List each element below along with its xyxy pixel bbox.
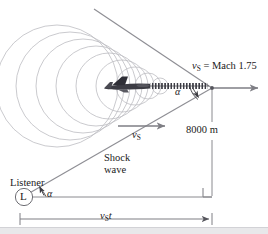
listener-marker-label: L [20, 190, 27, 202]
altitude-label: 8000 m [186, 124, 218, 136]
wavefront-circle [0, 25, 118, 147]
apex-dot [210, 86, 214, 90]
apex-alpha-label: α [175, 86, 180, 97]
listener-alpha-label: α [47, 188, 52, 199]
alpha-arc [190, 87, 198, 99]
listener-label: Listener [10, 177, 44, 189]
distance-label: vSt [100, 210, 112, 223]
mid-velocity-label: vS [132, 129, 141, 142]
alpha-pointer [193, 89, 199, 98]
aircraft-icon [104, 77, 150, 93]
speed-equals: = Mach 1.75 [201, 60, 257, 71]
bottom-divider [0, 227, 268, 234]
shock-wave-line1: Shock [104, 152, 130, 164]
distance-subscript-mid: S [137, 133, 141, 142]
right-angle-marker [203, 188, 212, 197]
aircraft-canopy [137, 84, 150, 87]
shock-wave-line2: wave [104, 164, 130, 176]
aircraft-wing [112, 77, 128, 86]
aircraft-underwing [117, 89, 129, 92]
speed-label: vS = Mach 1.75 [192, 60, 257, 73]
mach-cone-lower-line [26, 88, 212, 195]
distance-time: t [109, 210, 112, 221]
distance-dimension [20, 213, 212, 225]
sonic-boom-diagram [0, 0, 268, 234]
shock-wave-label: Shock wave [104, 152, 130, 176]
